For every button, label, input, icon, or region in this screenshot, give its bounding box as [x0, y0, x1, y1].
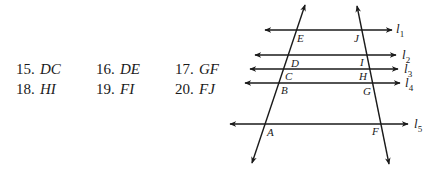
point-c: C [285, 70, 293, 82]
label-l1: l1 [396, 21, 404, 39]
point-d: D [290, 57, 299, 69]
left-transversal [252, 5, 305, 163]
point-a: A [266, 126, 274, 138]
point-g: G [363, 85, 371, 97]
point-b: B [281, 84, 288, 96]
point-j: J [354, 32, 360, 44]
parallel-lines-figure: E D C B A J I H G F l1 l2 l3 l4 l5 [0, 0, 440, 171]
point-e: E [296, 32, 304, 44]
point-h: H [358, 70, 368, 82]
point-f: F [371, 125, 379, 137]
label-l5: l5 [414, 116, 423, 134]
point-i: I [359, 56, 365, 68]
